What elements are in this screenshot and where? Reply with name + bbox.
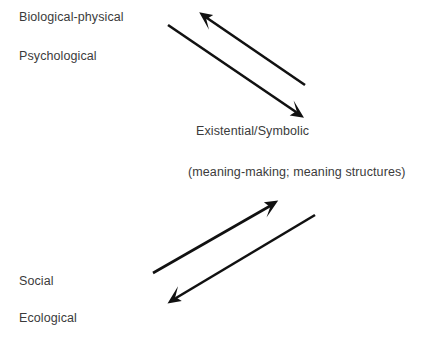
arrow-shaft <box>207 18 305 85</box>
arrow-upper-arrow-to-upper-left <box>199 12 305 85</box>
arrow-shaft <box>168 25 296 112</box>
label-psychological: Psychological <box>19 49 97 64</box>
arrow-shaft <box>153 206 270 273</box>
label-existential-symbolic: Existential/Symbolic <box>196 124 309 139</box>
arrow-lower-arrow-to-upper-right <box>153 201 278 274</box>
label-ecological: Ecological <box>19 311 77 326</box>
label-biological-physical: Biological-physical <box>19 10 124 25</box>
diagram-canvas: Biological-physical Psychological Existe… <box>0 0 444 337</box>
label-social: Social <box>19 274 54 289</box>
arrow-shaft <box>176 215 315 298</box>
arrow-lower-arrow-to-lower-left <box>168 215 316 304</box>
label-meaning-parenthetical: (meaning-making; meaning structures) <box>188 165 406 180</box>
